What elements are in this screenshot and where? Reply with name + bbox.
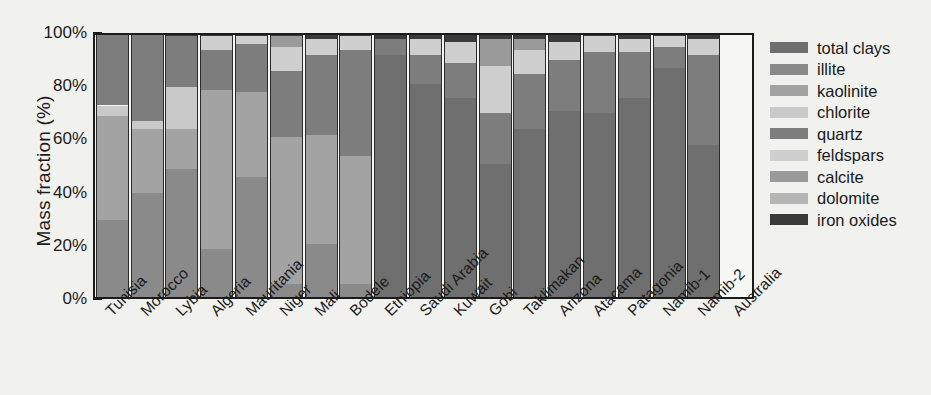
legend-item-dolomite[interactable]: dolomite (770, 188, 930, 210)
legend-item-quartz[interactable]: quartz (770, 123, 930, 145)
legend-label: calcite (817, 169, 864, 186)
legend: total claysillitekaolinitechloritequartz… (770, 37, 930, 231)
legend-item-chlorite[interactable]: chlorite (770, 102, 930, 124)
legend-label: iron oxides (817, 212, 897, 229)
legend-item-illite[interactable]: illite (770, 59, 930, 81)
legend-swatch-icon (770, 171, 808, 182)
legend-swatch-icon (770, 150, 808, 161)
legend-label: quartz (817, 126, 863, 143)
legend-swatch-icon (770, 193, 808, 204)
legend-swatch-icon (770, 42, 808, 53)
legend-swatch-icon (770, 107, 808, 118)
legend-swatch-icon (770, 128, 808, 139)
legend-swatch-icon (770, 214, 808, 225)
x-label-mali: Mali (311, 287, 344, 320)
legend-label: feldspars (817, 147, 884, 164)
legend-item-feldspars[interactable]: feldspars (770, 145, 930, 167)
legend-label: chlorite (817, 104, 870, 121)
legend-swatch-icon (770, 85, 808, 96)
dust-mineralogy-stacked-bar-chart: Mass fraction (%) 0%20%40%60%80%100% Tun… (0, 0, 931, 395)
legend-item-total-clays[interactable]: total clays (770, 37, 930, 59)
legend-swatch-icon (770, 64, 808, 75)
legend-item-iron-oxides[interactable]: iron oxides (770, 209, 930, 231)
legend-label: illite (817, 61, 845, 78)
legend-label: total clays (817, 40, 890, 57)
legend-item-calcite[interactable]: calcite (770, 166, 930, 188)
legend-label: dolomite (817, 190, 879, 207)
legend-item-kaolinite[interactable]: kaolinite (770, 80, 930, 102)
legend-label: kaolinite (817, 83, 878, 100)
